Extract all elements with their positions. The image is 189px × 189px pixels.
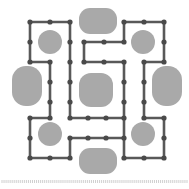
graph-node[interactable]: [101, 39, 106, 44]
graph-node[interactable]: [47, 155, 52, 160]
graph-node[interactable]: [121, 99, 126, 104]
graph-node[interactable]: [47, 99, 52, 104]
ruler-ticks: [2, 180, 187, 183]
blob-layer: [12, 8, 182, 174]
blob-topleft-small: [38, 30, 62, 54]
blob-bottomright-small: [131, 122, 155, 146]
graph-node[interactable]: [47, 115, 52, 120]
blob-bottomleft-small: [38, 122, 62, 146]
blob-left-tall: [12, 66, 42, 106]
graph-node[interactable]: [141, 155, 146, 160]
graph-node[interactable]: [67, 115, 72, 120]
graph-node[interactable]: [161, 115, 166, 120]
puzzle-canvas: [0, 0, 189, 189]
graph-node[interactable]: [67, 79, 72, 84]
graph-node[interactable]: [27, 59, 32, 64]
graph-node[interactable]: [67, 135, 72, 140]
graph-node[interactable]: [27, 39, 32, 44]
puzzle-graph[interactable]: [0, 0, 189, 189]
graph-node[interactable]: [47, 59, 52, 64]
graph-node[interactable]: [121, 79, 126, 84]
graph-node[interactable]: [27, 19, 32, 24]
graph-node[interactable]: [161, 135, 166, 140]
graph-node[interactable]: [85, 115, 90, 120]
graph-node[interactable]: [101, 59, 106, 64]
bottom-ruler: [0, 180, 189, 183]
graph-node[interactable]: [67, 39, 72, 44]
graph-node[interactable]: [121, 39, 126, 44]
graph-node[interactable]: [141, 115, 146, 120]
graph-node[interactable]: [85, 135, 90, 140]
graph-node[interactable]: [67, 59, 72, 64]
graph-node[interactable]: [27, 135, 32, 140]
graph-node[interactable]: [141, 59, 146, 64]
graph-node[interactable]: [67, 19, 72, 24]
blob-topright-small: [131, 30, 155, 54]
graph-node[interactable]: [81, 59, 86, 64]
graph-node[interactable]: [141, 79, 146, 84]
graph-node[interactable]: [141, 99, 146, 104]
graph-node[interactable]: [103, 115, 108, 120]
graph-node[interactable]: [47, 79, 52, 84]
graph-node[interactable]: [67, 99, 72, 104]
graph-node[interactable]: [141, 19, 146, 24]
blob-right-tall: [152, 66, 182, 106]
graph-node[interactable]: [161, 59, 166, 64]
graph-node[interactable]: [81, 39, 86, 44]
graph-node[interactable]: [161, 19, 166, 24]
graph-node[interactable]: [121, 115, 126, 120]
graph-node[interactable]: [27, 155, 32, 160]
blob-center-large: [79, 73, 113, 107]
blob-bottom-center: [79, 148, 117, 174]
graph-node[interactable]: [121, 155, 126, 160]
graph-node[interactable]: [47, 19, 52, 24]
blob-top-center: [79, 8, 117, 34]
graph-node[interactable]: [103, 135, 108, 140]
graph-node[interactable]: [121, 135, 126, 140]
graph-node[interactable]: [121, 19, 126, 24]
graph-node[interactable]: [161, 155, 166, 160]
graph-node[interactable]: [27, 115, 32, 120]
graph-node[interactable]: [121, 59, 126, 64]
graph-node[interactable]: [161, 39, 166, 44]
graph-node[interactable]: [67, 155, 72, 160]
